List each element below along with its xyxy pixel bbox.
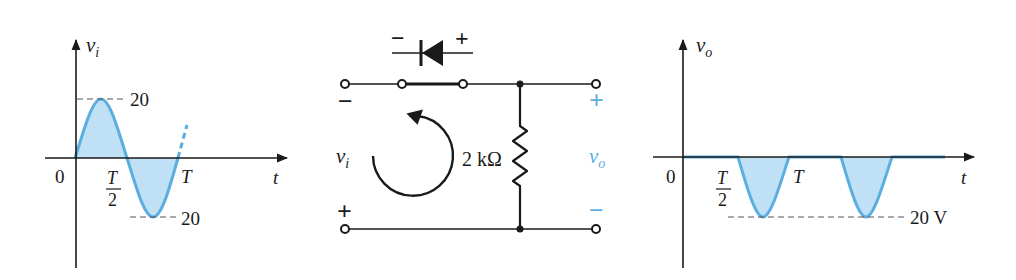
input-minus-sign: − [338, 87, 353, 116]
output-half-period-num: T [717, 168, 729, 188]
output-period-label: T [793, 166, 805, 187]
input-half-period-den: 2 [108, 190, 117, 210]
output-voltage-label: vo [589, 144, 605, 171]
input-x-label: t [273, 167, 279, 188]
resistor-label: 2 kΩ [462, 148, 502, 170]
input-half-period-num: T [107, 168, 119, 188]
input-plot: vi 20 20 0 T 2 T t [45, 33, 287, 268]
output-plot: vo 0 T 2 T t 20 V [653, 33, 974, 268]
input-voltage-label: vi [336, 144, 349, 171]
switch-terminal-right [459, 80, 467, 88]
input-period-label: T [181, 166, 193, 187]
output-half-period-den: 2 [718, 190, 727, 210]
input-terminal-bottom [341, 225, 349, 233]
diode-plus-sign: + [455, 25, 469, 51]
input-origin-label: 0 [55, 166, 65, 187]
resistor [513, 84, 527, 229]
output-y-label: vo [696, 33, 712, 60]
output-plus-sign: + [589, 86, 604, 115]
input-y-label: vi [86, 33, 99, 60]
input-trough-label: 20 [181, 208, 200, 229]
circuit: − + 2 kΩ − + vi + − vo [336, 25, 605, 233]
input-sine-continuation [178, 125, 187, 158]
diagram-canvas: vi 20 20 0 T 2 T t − + 2 k [0, 0, 1016, 280]
output-minus-sign: − [589, 196, 604, 225]
input-peak-label: 20 [130, 89, 149, 110]
input-plus-sign: + [337, 197, 352, 226]
diode-minus-sign: − [391, 25, 405, 51]
output-trough-label: 20 V [910, 207, 947, 228]
output-terminal-bottom [592, 225, 600, 233]
output-x-label: t [961, 167, 967, 188]
switch-terminal-left [398, 80, 406, 88]
output-origin-label: 0 [666, 166, 676, 187]
loop-current-arrow [373, 116, 453, 196]
